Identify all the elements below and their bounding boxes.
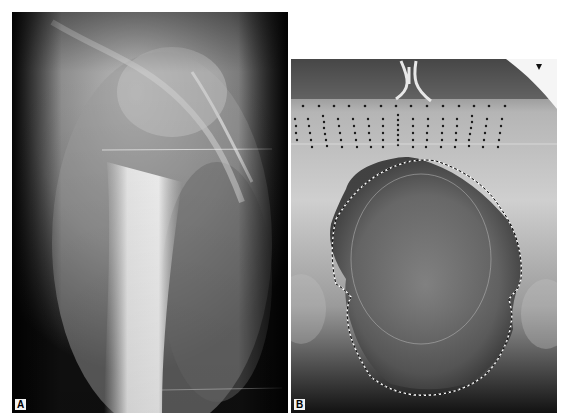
xray-panel-a: A xyxy=(12,12,288,413)
xray-image-a xyxy=(12,12,288,413)
xray-panel-b: B xyxy=(291,59,557,413)
panel-label-a: A xyxy=(15,399,26,410)
panel-label-b: B xyxy=(294,399,305,410)
xray-image-b xyxy=(291,59,557,413)
